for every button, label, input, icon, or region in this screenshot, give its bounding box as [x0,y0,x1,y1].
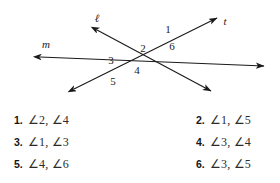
exercise-item-1[interactable]: 1. ∠2, ∠4 [0,113,140,128]
exercise-text: ∠1, ∠3 [28,135,69,150]
exercise-text: ∠3, ∠5 [210,157,251,172]
exercise-item-2[interactable]: 2. ∠1, ∠5 [140,113,280,128]
exercise-item-6[interactable]: 6. ∠3, ∠5 [140,157,280,172]
exercise-list: 1. ∠2, ∠4 2. ∠1, ∠5 3. ∠1, ∠3 4. ∠3, ∠4 … [0,110,280,183]
exercise-row: 1. ∠2, ∠4 2. ∠1, ∠5 [0,113,280,135]
exercise-item-4[interactable]: 4. ∠3, ∠4 [140,135,280,150]
angle-label-6: 6 [169,40,175,52]
exercise-text: ∠2, ∠4 [28,113,69,128]
angle-label-5: 5 [110,75,116,87]
geometry-figure: ℓ m t 1 2 3 4 5 6 [0,0,280,110]
exercise-number: 1. [14,114,23,126]
angle-label-1: 1 [165,23,171,35]
exercise-row: 5. ∠4, ∠6 6. ∠3, ∠5 [0,157,280,179]
exercise-text: ∠4, ∠6 [28,157,69,172]
line-m [40,57,264,66]
exercise-item-5[interactable]: 5. ∠4, ∠6 [0,157,140,172]
line-label-t: t [223,15,227,27]
exercise-text: ∠3, ∠4 [210,135,251,150]
exercise-item-3[interactable]: 3. ∠1, ∠3 [0,135,140,150]
exercise-number: 3. [14,136,23,148]
line-label-l: ℓ [95,12,100,24]
exercise-row: 3. ∠1, ∠3 4. ∠3, ∠4 [0,135,280,157]
exercise-number: 6. [196,158,205,170]
line-label-m: m [42,38,50,50]
angle-label-3: 3 [108,54,114,66]
exercise-number: 5. [14,158,23,170]
exercise-number: 4. [196,136,205,148]
angle-label-4: 4 [134,64,140,76]
exercise-text: ∠1, ∠5 [210,113,251,128]
exercise-number: 2. [196,114,205,126]
angle-label-2: 2 [140,42,146,54]
